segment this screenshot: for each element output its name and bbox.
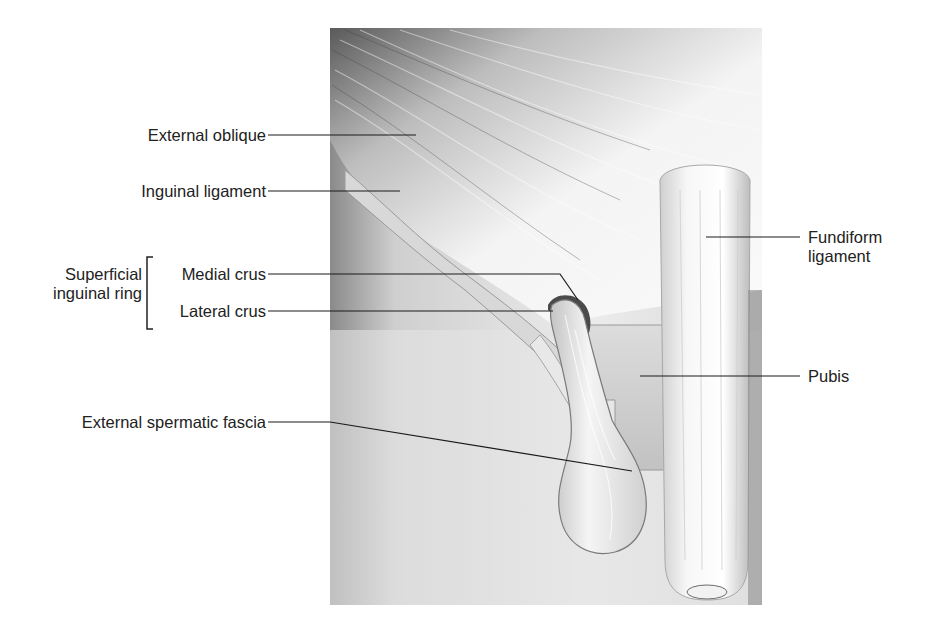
label-superficial-inguinal-ring-line1: Superficial [53, 265, 142, 284]
label-superficial-inguinal-ring: Superficial inguinal ring [53, 265, 142, 303]
label-external-oblique: External oblique [148, 126, 266, 145]
label-medial-crus: Medial crus [182, 265, 266, 284]
label-fundiform-ligament: Fundiform ligament [808, 228, 882, 266]
label-superficial-inguinal-ring-line2: inguinal ring [53, 284, 142, 303]
label-external-spermatic-fascia: External spermatic fascia [82, 413, 266, 432]
superficial-ring-bracket [147, 257, 153, 329]
penis-cross-section [687, 585, 727, 599]
label-fundiform-ligament-line2: ligament [808, 247, 882, 266]
anatomy-illustration [0, 0, 934, 625]
label-lateral-crus: Lateral crus [180, 302, 266, 321]
label-inguinal-ligament: Inguinal ligament [141, 182, 266, 201]
label-pubis: Pubis [808, 367, 849, 386]
label-fundiform-ligament-line1: Fundiform [808, 228, 882, 247]
